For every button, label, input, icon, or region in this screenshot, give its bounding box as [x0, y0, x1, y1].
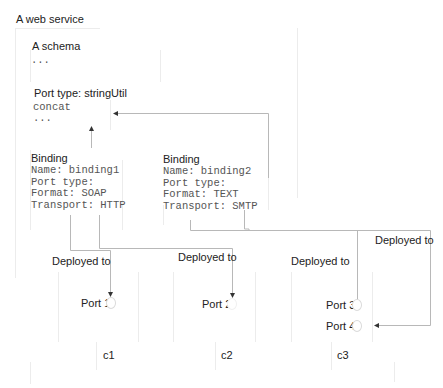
schema-label: A schema — [32, 40, 80, 53]
deployed-to-label-1: Deployed to — [52, 255, 111, 268]
port3-circle-icon — [352, 299, 362, 311]
port4-circle-icon — [352, 320, 362, 332]
binding1: Binding Name: binding1 Port type: Format… — [31, 152, 126, 211]
port3-label: Port 3 — [326, 299, 355, 312]
web-service-title: A web service — [16, 13, 84, 26]
container-c3: c3 — [337, 349, 349, 362]
deployed-to-label-3: Deployed to — [291, 255, 350, 268]
container-c2: c2 — [221, 349, 233, 362]
binding1-transport: Transport: HTTP — [31, 200, 126, 212]
port1-circle-icon — [106, 297, 116, 309]
port-type-ellipsis: ... — [33, 113, 52, 125]
deployed-to-label-2: Deployed to — [178, 251, 237, 264]
binding2-format: Format: TEXT — [163, 189, 258, 201]
binding2-name: Name: binding2 — [163, 166, 258, 178]
port4-label: Port 4 — [326, 320, 355, 333]
binding2: Binding Name: binding2 Port type: Format… — [163, 153, 258, 212]
binding2-transport: Transport: SMTP — [163, 201, 258, 213]
binding1-name: Name: binding1 — [31, 165, 126, 177]
binding1-format: Format: SOAP — [31, 188, 126, 200]
container-c1: c1 — [103, 349, 115, 362]
deployed-to-label-4: Deployed to — [375, 234, 434, 247]
port-type-label: Port type: stringUtil — [34, 87, 127, 100]
schema-content: ... — [31, 55, 50, 67]
port2-circle-icon — [227, 298, 237, 310]
